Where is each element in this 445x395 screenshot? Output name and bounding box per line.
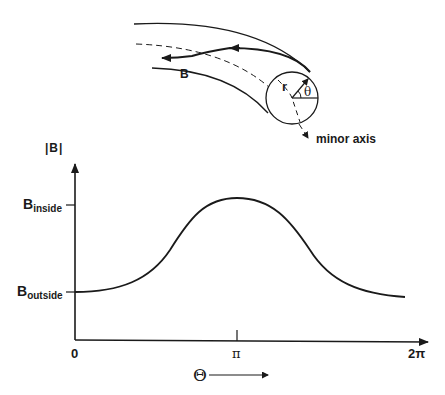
x-tick-2pi: 2π xyxy=(408,346,425,361)
y-axis-label: |B| xyxy=(45,141,63,155)
x-tick-pi: π xyxy=(232,346,241,361)
torus-sketch: B r θ minor axis xyxy=(134,23,376,146)
field-label-b: B xyxy=(180,67,189,81)
x-axis-label: Θ xyxy=(193,365,207,385)
b-outside-label: Boutside xyxy=(17,283,63,301)
torus-outer-edge xyxy=(134,23,310,72)
diagram: B r θ minor axis |B| Binside Boutside 0 … xyxy=(0,0,445,395)
minor-axis-label: minor axis xyxy=(316,132,376,146)
x-tick-0: 0 xyxy=(71,346,78,361)
field-strength-plot: |B| Binside Boutside 0 π 2π Θ xyxy=(17,141,428,385)
radius-label-r: r xyxy=(282,79,287,94)
b-inside-label: Binside xyxy=(23,196,62,214)
angle-label-theta: θ xyxy=(304,85,311,99)
torus-inner-edge xyxy=(152,68,268,113)
x-axis xyxy=(75,340,428,342)
field-strength-curve xyxy=(75,198,405,297)
